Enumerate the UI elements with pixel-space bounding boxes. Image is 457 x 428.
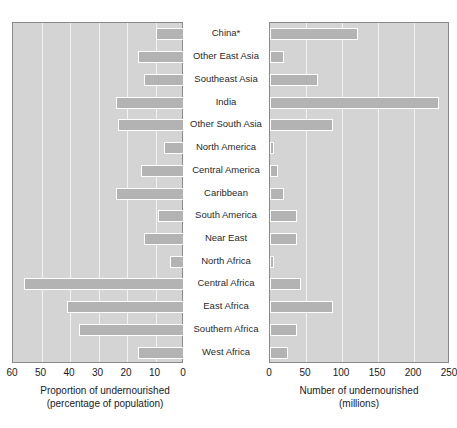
bar-west-africa xyxy=(138,347,184,359)
right-axis-tick-labels: 050100150200250 xyxy=(269,366,449,380)
axis-tick-label: 50 xyxy=(35,366,46,380)
bar-southern-africa xyxy=(270,324,297,336)
axis-tick-label: 30 xyxy=(92,366,103,380)
axis-tick-label: 250 xyxy=(441,366,457,380)
bar-row xyxy=(13,97,184,109)
bar-north-america xyxy=(164,142,184,154)
category-label: East Africa xyxy=(183,300,269,312)
bar-southeast-asia xyxy=(144,74,184,86)
category-label: Southern Africa xyxy=(183,323,269,335)
bar-east-africa xyxy=(270,301,333,313)
bar-southeast-asia xyxy=(270,74,318,86)
axis-tick-label: 200 xyxy=(405,366,422,380)
left-chart-panel xyxy=(12,22,183,363)
bar-row xyxy=(13,119,184,131)
bar-row xyxy=(270,28,450,40)
bar-row xyxy=(270,51,450,63)
right-axis-title: Number of undernourished (millions) xyxy=(269,384,449,410)
left-panel-bars xyxy=(13,23,182,362)
bar-row xyxy=(13,301,184,313)
category-label: Other East Asia xyxy=(183,50,269,62)
bar-row xyxy=(270,188,450,200)
category-label: Central Africa xyxy=(183,277,269,289)
bar-row xyxy=(270,119,450,131)
bar-india xyxy=(116,97,184,109)
category-label: North Africa xyxy=(183,255,269,267)
axis-tick-label: 20 xyxy=(120,366,131,380)
left-axis-title: Proportion of undernourished (percentage… xyxy=(0,384,210,410)
bar-other-south-asia xyxy=(270,119,333,131)
bar-row xyxy=(13,165,184,177)
category-label: Central America xyxy=(183,164,269,176)
bar-row xyxy=(270,347,450,359)
category-label: Near East xyxy=(183,232,269,244)
bar-southern-africa xyxy=(79,324,184,336)
bar-row xyxy=(13,142,184,154)
bar-row xyxy=(270,256,450,268)
axis-tick-label: 100 xyxy=(333,366,350,380)
left-axis-tick-labels: 6050403020100 xyxy=(12,366,183,380)
category-label: India xyxy=(183,96,269,108)
bar-caribbean xyxy=(270,188,284,200)
bar-row xyxy=(13,233,184,245)
category-label: China* xyxy=(183,27,269,39)
bar-china xyxy=(270,28,358,40)
bar-north-africa xyxy=(170,256,184,268)
left-axis-title-line1: Proportion of undernourished xyxy=(40,385,170,396)
bar-west-africa xyxy=(270,347,288,359)
axis-tick-label: 10 xyxy=(149,366,160,380)
category-label: North America xyxy=(183,141,269,153)
bar-row xyxy=(270,278,450,290)
bar-near-east xyxy=(144,233,184,245)
right-axis-title-line2: (millions) xyxy=(269,397,449,410)
category-label: Southeast Asia xyxy=(183,73,269,85)
bar-india xyxy=(270,97,439,109)
bar-central-america xyxy=(270,165,278,177)
bar-row xyxy=(13,210,184,222)
bar-row xyxy=(270,324,450,336)
right-chart-panel xyxy=(269,22,449,363)
bar-row xyxy=(270,142,450,154)
bar-east-africa xyxy=(67,301,184,313)
category-label: West Africa xyxy=(183,346,269,358)
axis-tick-label: 50 xyxy=(299,366,310,380)
bar-row xyxy=(13,74,184,86)
bar-central-africa xyxy=(24,278,184,290)
bar-row xyxy=(13,28,184,40)
bar-row xyxy=(13,51,184,63)
bar-south-america xyxy=(158,210,184,222)
bar-north-africa xyxy=(270,256,274,268)
axis-tick-label: 0 xyxy=(266,366,272,380)
bar-north-america xyxy=(270,142,274,154)
left-axis-title-line2: (percentage of population) xyxy=(0,397,210,410)
bar-row xyxy=(13,278,184,290)
category-label: Caribbean xyxy=(183,187,269,199)
bar-row xyxy=(13,256,184,268)
bar-other-south-asia xyxy=(118,119,184,131)
bar-near-east xyxy=(270,233,297,245)
axis-tick-label: 150 xyxy=(369,366,386,380)
bar-south-america xyxy=(270,210,297,222)
axis-tick-label: 60 xyxy=(6,366,17,380)
bar-row xyxy=(13,324,184,336)
bar-row xyxy=(270,301,450,313)
right-axis-title-line1: Number of undernourished xyxy=(300,385,419,396)
bar-central-america xyxy=(141,165,184,177)
bar-other-east-asia xyxy=(138,51,184,63)
category-label-column: China*Other East AsiaSoutheast AsiaIndia… xyxy=(183,22,269,363)
category-label: South America xyxy=(183,209,269,221)
bar-china xyxy=(156,28,185,40)
bar-row xyxy=(270,233,450,245)
right-panel-bars xyxy=(270,23,448,362)
bar-row xyxy=(13,188,184,200)
bar-caribbean xyxy=(116,188,184,200)
bar-other-east-asia xyxy=(270,51,284,63)
bar-row xyxy=(270,97,450,109)
bar-row xyxy=(270,210,450,222)
bar-central-africa xyxy=(270,278,301,290)
axis-tick-label: 40 xyxy=(63,366,74,380)
axis-tick-label: 0 xyxy=(180,366,186,380)
bar-row xyxy=(13,347,184,359)
category-label: Other South Asia xyxy=(183,118,269,130)
